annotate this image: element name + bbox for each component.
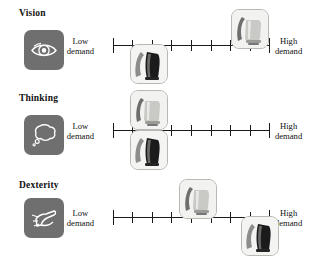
axis-tick — [230, 212, 231, 223]
attribute-row-thinking: Thinking Low demand High demand — [0, 85, 333, 169]
axis-label-high: High demand — [275, 121, 302, 142]
axis-tick — [171, 212, 172, 223]
axis-label-low-line1: Low — [67, 208, 94, 218]
axis-label-high-line2: demand — [275, 46, 302, 56]
axis-label-high-line1: High — [275, 36, 302, 46]
axis-label-high: High demand — [275, 36, 302, 57]
axis-tick-end-high — [269, 38, 270, 53]
axis-label-high: High demand — [275, 208, 302, 229]
axis-label-high-line2: demand — [275, 131, 302, 141]
product-marker-dark-kettle[interactable] — [130, 44, 168, 84]
axis-label-low: Low demand — [67, 208, 94, 229]
product-marker-light-kettle[interactable] — [231, 9, 269, 49]
demand-axis-thinking: Low demand High demand — [0, 85, 333, 169]
axis-label-low-line2: demand — [67, 46, 94, 56]
light-kettle-thumbnail-icon — [232, 10, 268, 48]
attribute-row-dexterity: Dexterity Low demand High dem — [0, 172, 333, 256]
light-kettle-thumbnail-icon — [131, 91, 167, 129]
axis-tick-end-low — [113, 123, 114, 138]
axis-label-low-line2: demand — [67, 218, 94, 228]
attribute-row-vision: Vision Low demand High demand — [0, 0, 333, 84]
axis-tick — [191, 40, 192, 51]
axis-tick — [152, 212, 153, 223]
axis-label-high-line1: High — [275, 121, 302, 131]
axis-tick-end-high — [269, 123, 270, 138]
axis-tick — [250, 125, 251, 136]
demand-axis-vision: Low demand High demand — [0, 0, 333, 84]
axis-label-low-line2: demand — [67, 131, 94, 141]
product-marker-dark-kettle[interactable] — [130, 130, 168, 170]
product-marker-dark-kettle[interactable] — [241, 216, 279, 256]
axis-label-high-line2: demand — [275, 218, 302, 228]
axis-tick — [230, 125, 231, 136]
product-marker-light-kettle[interactable] — [130, 90, 168, 130]
axis-label-low: Low demand — [67, 36, 94, 57]
dark-kettle-thumbnail-icon — [131, 131, 167, 169]
axis-tick — [211, 125, 212, 136]
dark-kettle-thumbnail-icon — [242, 217, 278, 255]
axis-label-low-line1: Low — [67, 121, 94, 131]
axis-tick-end-low — [113, 210, 114, 225]
demand-axis-dexterity: Low demand High demand — [0, 172, 333, 256]
axis-label-low: Low demand — [67, 121, 94, 142]
axis-tick-end-low — [113, 38, 114, 53]
light-kettle-thumbnail-icon — [180, 180, 216, 218]
axis-tick — [171, 125, 172, 136]
axis-tick — [211, 40, 212, 51]
dark-kettle-thumbnail-icon — [131, 45, 167, 83]
axis-tick — [132, 212, 133, 223]
axis-label-high-line1: High — [275, 208, 302, 218]
product-marker-light-kettle[interactable] — [179, 179, 217, 219]
axis-label-low-line1: Low — [67, 36, 94, 46]
axis-tick — [171, 40, 172, 51]
axis-tick — [191, 125, 192, 136]
